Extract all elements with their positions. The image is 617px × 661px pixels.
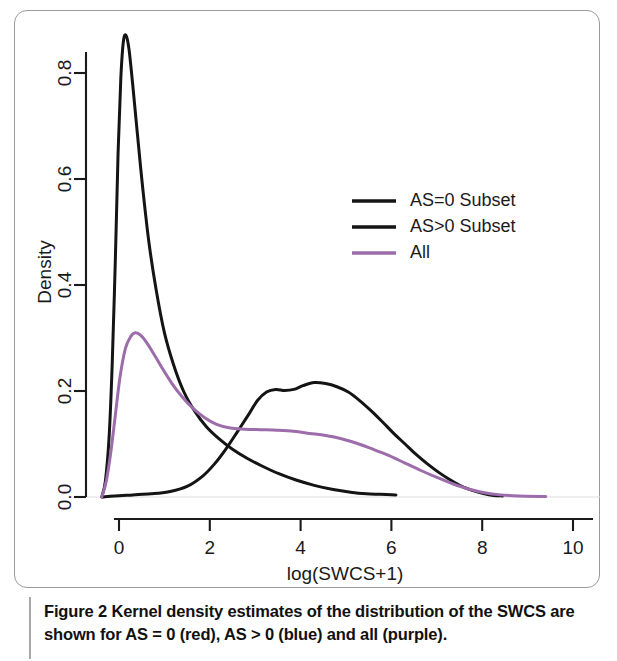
y-tick-label-0.6: 0.6 (54, 166, 75, 192)
density-plot: 02468100.00.20.40.60.8log(SWCS+1)Density… (0, 0, 617, 600)
x-tick-label-0: 0 (114, 537, 125, 558)
figure-2-container: 02468100.00.20.40.60.8log(SWCS+1)Density… (0, 0, 617, 661)
x-tick-label-6: 6 (386, 537, 397, 558)
y-tick-label-0.4: 0.4 (54, 271, 75, 298)
x-tick-label-8: 8 (477, 537, 488, 558)
y-tick-label-0.8: 0.8 (54, 60, 75, 86)
series-curve-0 (102, 35, 396, 497)
figure-caption-label: Figure 2 (44, 602, 107, 620)
series-curve-2 (102, 333, 546, 497)
x-axis-title: log(SWCS+1) (287, 563, 404, 584)
y-tick-label-0.0: 0.0 (54, 484, 75, 510)
x-tick-label-2: 2 (205, 537, 216, 558)
legend-label-2: All (410, 242, 430, 262)
x-tick-label-10: 10 (562, 537, 583, 558)
legend-label-1: AS>0 Subset (410, 216, 516, 236)
x-tick-label-4: 4 (295, 537, 306, 558)
y-tick-label-0.2: 0.2 (54, 378, 75, 404)
legend-label-0: AS=0 Subset (410, 190, 516, 210)
figure-caption: Figure 2 Kernel density estimates of the… (44, 600, 604, 647)
figure-caption-body: Kernel density estimates of the distribu… (44, 602, 575, 643)
caption-left-rule (29, 597, 31, 659)
y-axis-title: Density (34, 240, 55, 304)
